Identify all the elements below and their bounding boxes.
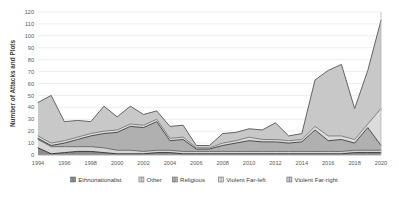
y-tick-label: 70 [28,69,34,75]
y-tick-label: 80 [28,57,34,63]
chart-canvas: 0102030405060708090100110120 19941996199… [0,0,399,200]
x-tick-label: 1996 [58,160,70,166]
y-tick-label: 0 [31,152,34,158]
x-tick-label: 2008 [216,160,228,166]
legend-item-religious[interactable]: Religious [172,176,205,183]
y-axis-title: Number of Attacks and Plots [9,40,16,128]
y-tick-label: 20 [28,128,34,134]
y-tick-label: 10 [28,140,34,146]
x-tick-label: 2016 [322,160,334,166]
legend-item-ethnonationalist[interactable]: Ethnonationalist [71,176,122,183]
x-tick-label: 2020 [375,160,387,166]
legend-item-violent-far-left[interactable]: Violent Far-left [219,176,266,183]
y-tick-label: 50 [28,93,34,99]
y-tick-label: 40 [28,104,34,110]
y-tick-label: 30 [28,116,34,122]
legend-item-violent-far-right[interactable]: Violent Far-right [287,176,338,183]
x-tick-label: 2014 [296,160,308,166]
x-tick-labels-group: 1994199619982000200220042006200820102012… [32,160,387,166]
x-tick-label: 2000 [111,160,123,166]
y-tick-label: 100 [25,33,34,39]
legend-item-other[interactable]: Other [139,176,162,183]
chart-legend: EthnonationalistOtherReligiousViolent Fa… [71,176,338,183]
x-tick-label: 2012 [269,160,281,166]
legend-label-violent-far-right: Violent Far-right [294,176,338,183]
y-tick-label: 60 [28,81,34,87]
x-tick-label: 2004 [164,160,176,166]
legend-label-ethnonationalist: Ethnonationalist [78,176,122,183]
y-tick-labels-group: 0102030405060708090100110120 [25,9,34,158]
legend-label-religious: Religious [180,176,205,183]
legend-label-other: Other [147,176,162,183]
x-tick-label: 1998 [85,160,97,166]
x-tick-label: 2002 [137,160,149,166]
x-tick-label: 2010 [243,160,255,166]
x-tick-label: 1994 [32,160,44,166]
y-tick-label: 120 [25,9,34,15]
series-areas-group [38,20,381,155]
x-tick-label: 2018 [348,160,360,166]
stacked-area-chart: 0102030405060708090100110120 19941996199… [0,0,399,200]
legend-label-violent-far-left: Violent Far-left [226,176,266,183]
x-tick-label: 2006 [190,160,202,166]
y-tick-label: 90 [28,45,34,51]
y-tick-label: 110 [25,21,34,27]
series-area-violent-far-right [38,20,381,148]
